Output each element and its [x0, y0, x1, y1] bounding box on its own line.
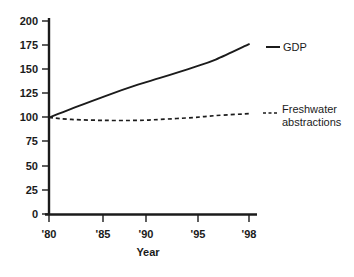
y-tick-label-50: 50: [26, 160, 38, 172]
x-tick-label-1980: '80: [42, 228, 57, 240]
y-tick-label-0: 0: [32, 208, 38, 220]
legend-label-gdp: GDP: [283, 41, 307, 53]
y-tick-label-175: 175: [20, 39, 38, 51]
legend-label-freshwater-line1: Freshwater: [282, 103, 337, 115]
y-tick-label-200: 200: [20, 15, 38, 27]
series-line-gdp: [49, 44, 249, 117]
legend-label-freshwater-line2: abstractions: [282, 116, 342, 128]
y-tick-label-150: 150: [20, 63, 38, 75]
x-axis-title: Year: [136, 246, 160, 258]
y-tick-label-100: 100: [20, 111, 38, 123]
x-tick-label-1998: '98: [242, 228, 257, 240]
y-tick-label-25: 25: [26, 184, 38, 196]
x-tick-label-1985: '85: [96, 228, 111, 240]
y-tick-label-75: 75: [26, 135, 38, 147]
y-tick-label-125: 125: [20, 87, 38, 99]
x-tick-label-1995: '95: [191, 228, 206, 240]
x-tick-label-1990: '90: [139, 228, 154, 240]
chart-container: 200 175 150 125 100 75 50 25 0 '80 '85 '…: [0, 0, 354, 277]
line-chart: 200 175 150 125 100 75 50 25 0 '80 '85 '…: [0, 0, 354, 277]
series-line-freshwater-abstractions: [49, 114, 249, 121]
